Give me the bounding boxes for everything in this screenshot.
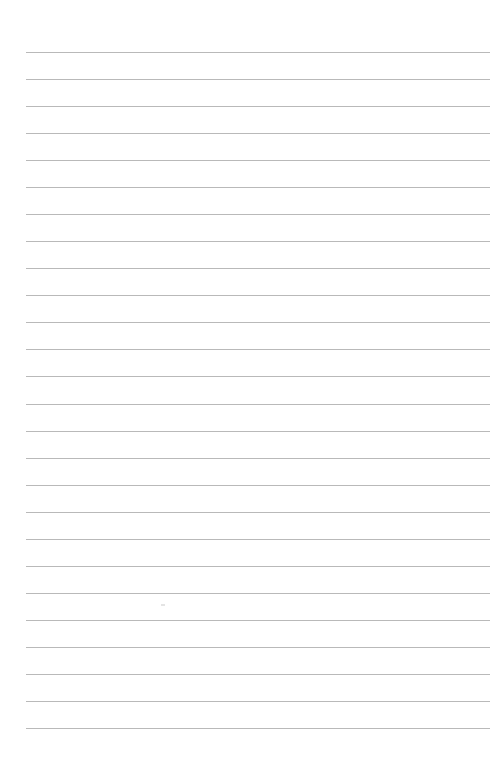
- ruled-line: [26, 187, 490, 188]
- ruled-line: [26, 701, 490, 702]
- ruled-line: [26, 349, 490, 350]
- ruled-line: [26, 647, 490, 648]
- ruled-line: [26, 241, 490, 242]
- paper-speck: [161, 604, 165, 606]
- ruled-line: [26, 485, 490, 486]
- ruled-line: [26, 322, 490, 323]
- ruled-line: [26, 268, 490, 269]
- ruled-line: [26, 295, 490, 296]
- ruled-line: [26, 458, 490, 459]
- ruled-line: [26, 431, 490, 432]
- ruled-line: [26, 160, 490, 161]
- ruled-line: [26, 593, 490, 594]
- ruled-line: [26, 133, 490, 134]
- ruled-line: [26, 566, 490, 567]
- ruled-line: [26, 52, 490, 53]
- ruled-line: [26, 214, 490, 215]
- ruled-line: [26, 620, 490, 621]
- ruled-line: [26, 79, 490, 80]
- lined-paper-page: [0, 0, 493, 760]
- ruled-line: [26, 728, 490, 729]
- ruled-line: [26, 674, 490, 675]
- ruled-line: [26, 106, 490, 107]
- ruled-line: [26, 512, 490, 513]
- ruled-line: [26, 376, 490, 377]
- ruled-line: [26, 404, 490, 405]
- ruled-line: [26, 539, 490, 540]
